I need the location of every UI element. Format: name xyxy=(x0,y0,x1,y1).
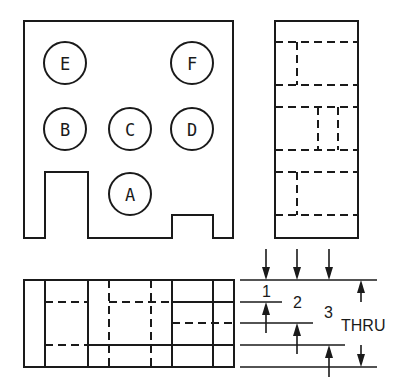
depth-label-3: 3 xyxy=(324,304,333,321)
side-view xyxy=(275,21,358,238)
thru-arrow-up xyxy=(357,280,365,302)
hole-f: F xyxy=(171,42,213,84)
dimension-arrow-down xyxy=(293,249,301,280)
hole-label-e: E xyxy=(60,54,70,74)
depth-label-2: 2 xyxy=(293,294,302,311)
hole-a: A xyxy=(109,173,151,215)
hole-c: C xyxy=(109,108,151,150)
dimension-arrow-down xyxy=(262,249,270,280)
hole-label-a: A xyxy=(125,185,135,205)
hole-label-c: C xyxy=(125,120,135,140)
hole-b: B xyxy=(44,108,86,150)
depth-dimensions: 1 2 3 THRU xyxy=(240,249,385,377)
dimension-arrow-up xyxy=(262,302,270,333)
hole-label-b: B xyxy=(60,120,70,140)
technical-drawing: E F B C D A xyxy=(0,0,397,392)
hole-label-d: D xyxy=(187,120,197,140)
top-view xyxy=(24,280,234,367)
dimension-arrow-up xyxy=(325,345,333,377)
front-view: E F B C D A xyxy=(24,21,233,238)
side-view-outline xyxy=(275,21,358,238)
dimension-arrow-down xyxy=(325,249,333,280)
dimension-arrow-up xyxy=(293,323,301,354)
hole-e: E xyxy=(44,42,86,84)
hole-d: D xyxy=(171,108,213,150)
depth-label-1: 1 xyxy=(262,283,271,300)
thru-arrow-down xyxy=(357,345,365,367)
hole-label-f: F xyxy=(187,54,197,74)
thru-label: THRU xyxy=(341,317,385,334)
